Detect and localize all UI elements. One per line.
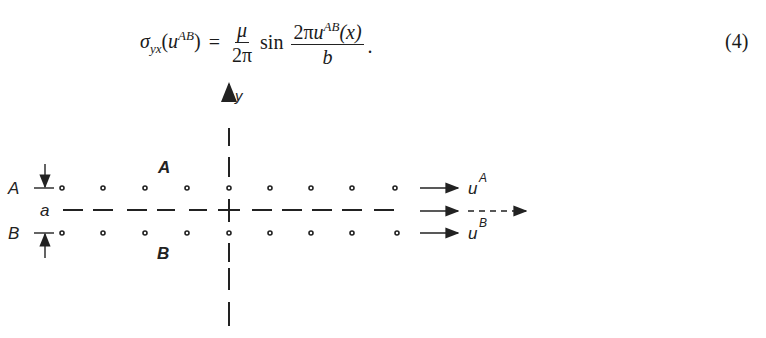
ua-var: u	[468, 179, 478, 198]
displacement-label-ua: u A	[468, 171, 487, 198]
ub-sup: B	[479, 216, 487, 230]
spacing-label-a: a	[40, 201, 49, 220]
y-axis-label: y	[234, 87, 244, 104]
region-label-b: B	[157, 244, 169, 263]
region-label-a: A	[157, 158, 170, 177]
dislocation-figure: y A a B A B	[0, 0, 766, 338]
row-label-a: A	[7, 179, 19, 198]
row-label-b: B	[8, 224, 19, 243]
ub-var: u	[468, 224, 478, 243]
atom-row-a	[60, 186, 397, 190]
atom-row-b	[60, 231, 399, 235]
ua-sup: A	[478, 171, 487, 185]
displacement-label-ub: u B	[468, 216, 487, 243]
